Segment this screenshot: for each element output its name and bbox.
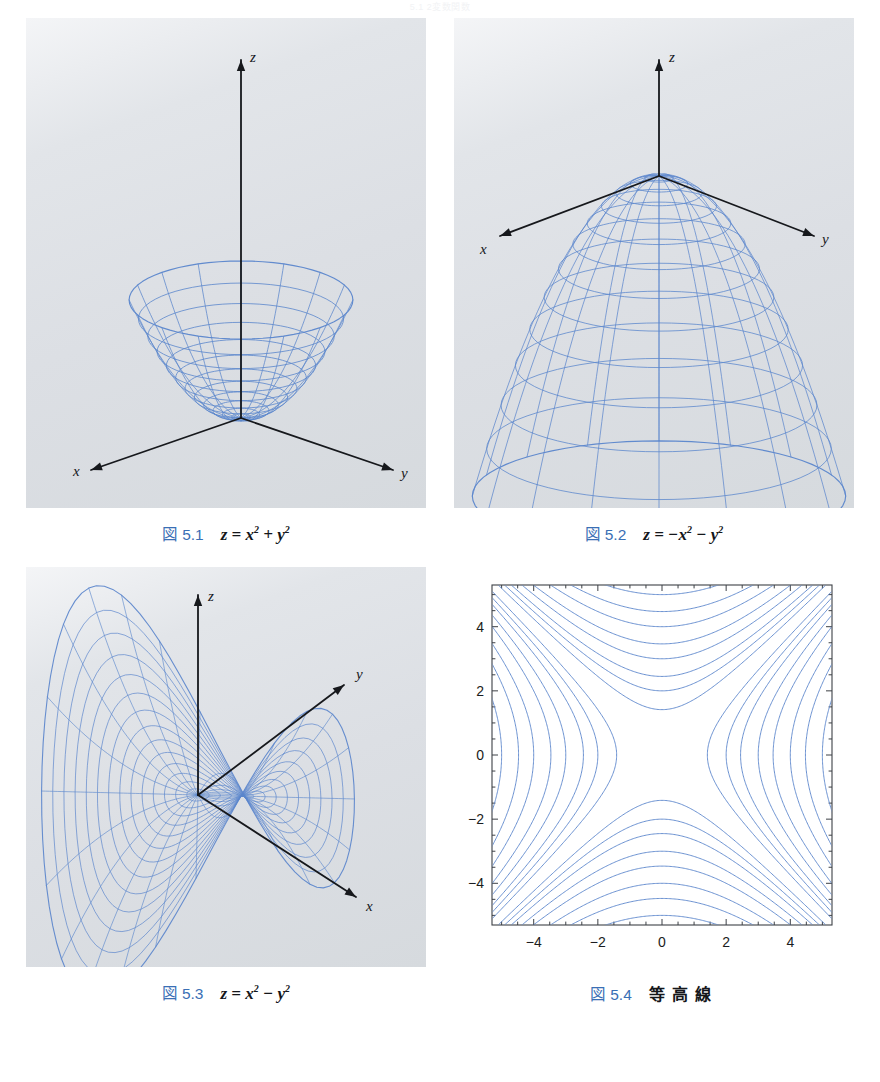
- svg-text:x: x: [365, 898, 373, 914]
- upward-paraboloid-plot: zxy: [26, 18, 426, 508]
- figure-5-1-panel: zxy: [26, 18, 426, 508]
- caption-number: 5.2: [605, 526, 627, 544]
- svg-text:−4: −4: [468, 875, 484, 891]
- figure-5-4-caption: 図 5.4 等高線: [590, 981, 718, 1005]
- figure-5-4-panel: −4−2024−4−2024: [454, 567, 854, 967]
- svg-text:4: 4: [786, 934, 794, 950]
- svg-text:−2: −2: [590, 934, 606, 950]
- contour-plot: −4−2024−4−2024: [454, 567, 854, 967]
- figure-5-4: −4−2024−4−2024 図 5.4 等高線: [454, 567, 854, 1005]
- svg-text:y: y: [820, 231, 829, 247]
- svg-text:2: 2: [476, 683, 484, 699]
- figure-5-2: zxy 図 5.2 z = −x2 − y2: [454, 18, 854, 545]
- saddle-surface-plot: zxy: [26, 567, 426, 967]
- caption-formula: z = −x2 − y2: [643, 524, 723, 545]
- svg-text:x: x: [479, 241, 487, 257]
- figure-5-3-panel: zxy: [26, 567, 426, 967]
- caption-label: 等高線: [649, 981, 718, 1005]
- svg-text:−4: −4: [526, 934, 542, 950]
- figure-5-2-caption: 図 5.2 z = −x2 − y2: [585, 522, 724, 545]
- svg-text:4: 4: [476, 619, 484, 635]
- caption-number: 5.3: [182, 985, 204, 1003]
- downward-paraboloid-plot: zxy: [454, 18, 854, 508]
- caption-number: 5.4: [610, 986, 632, 1004]
- svg-text:−2: −2: [468, 811, 484, 827]
- caption-fig-glyph: 図: [590, 982, 606, 1004]
- figure-5-3-caption: 図 5.3 z = x2 − y2: [162, 981, 290, 1004]
- figure-5-1: zxy 図 5.1 z = x2 + y2: [26, 18, 426, 545]
- svg-text:x: x: [72, 463, 80, 479]
- svg-text:y: y: [354, 666, 363, 682]
- figure-5-3: zxy 図 5.3 z = x2 − y2: [26, 567, 426, 1005]
- caption-formula: z = x2 − y2: [220, 983, 290, 1004]
- svg-text:0: 0: [476, 747, 484, 763]
- figure-5-2-panel: zxy: [454, 18, 854, 508]
- figure-row-bottom: zxy 図 5.3 z = x2 − y2 −4−2024−4−2024 図 5…: [0, 567, 880, 1005]
- svg-text:z: z: [207, 588, 214, 604]
- svg-text:y: y: [399, 465, 408, 481]
- caption-formula: z = x2 + y2: [221, 524, 290, 545]
- figure-row-top: zxy 図 5.1 z = x2 + y2 zxy 図 5.2 z = −x2 …: [0, 18, 880, 545]
- caption-fig-glyph: 図: [162, 981, 178, 1003]
- svg-text:z: z: [668, 49, 675, 65]
- svg-text:z: z: [249, 49, 256, 65]
- caption-fig-glyph: 図: [585, 522, 601, 544]
- figure-grid: zxy 図 5.1 z = x2 + y2 zxy 図 5.2 z = −x2 …: [0, 18, 880, 1005]
- caption-number: 5.1: [182, 526, 204, 544]
- svg-text:2: 2: [722, 934, 730, 950]
- svg-text:0: 0: [658, 934, 666, 950]
- page-header: 5.1 2変数関数: [0, 0, 880, 14]
- figure-5-1-caption: 図 5.1 z = x2 + y2: [162, 522, 290, 545]
- caption-fig-glyph: 図: [162, 522, 178, 544]
